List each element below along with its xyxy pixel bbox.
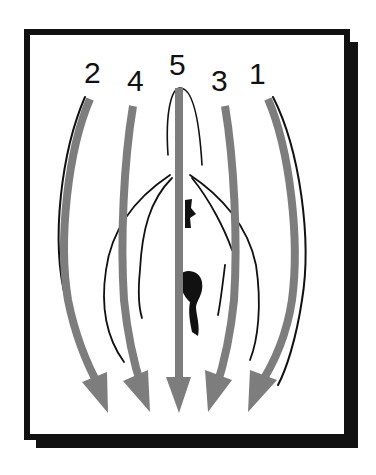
arrow-label-3: 3 [211,64,228,97]
arrow-label-4: 4 [127,64,144,97]
anatomical-diagram: 2 4 5 3 1 [0,0,376,475]
arrow-label-5: 5 [169,48,186,81]
arrow-label-2: 2 [84,56,101,89]
arrow-label-1: 1 [249,57,266,90]
frame [24,29,358,448]
